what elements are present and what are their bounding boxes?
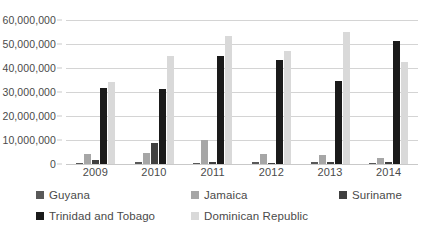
y-axis-tick-mark — [57, 164, 62, 165]
bar-jamaica-2010[interactable] — [143, 153, 150, 164]
y-axis-tick-label: 30,000,000 — [2, 86, 56, 98]
y-axis-tick-label: 0 — [50, 158, 56, 170]
bar-trinidad-and-tobago-2009[interactable] — [100, 88, 107, 164]
y-axis-tick-mark — [57, 92, 62, 93]
x-axis-tick-label-2012: 2012 — [242, 166, 301, 182]
legend-swatch-suriname — [339, 191, 347, 199]
bar-group-2011 — [183, 20, 242, 164]
legend-label-suriname: Suriname — [352, 189, 402, 201]
bar-guyana-2009[interactable] — [76, 163, 83, 164]
bar-suriname-2014[interactable] — [385, 162, 392, 164]
legend-item-jamaica[interactable]: Jamaica — [191, 189, 339, 201]
bar-guyana-2012[interactable] — [252, 162, 259, 164]
bar-group-2014 — [359, 20, 418, 164]
x-axis-tick-label-2009: 2009 — [66, 166, 125, 182]
legend-swatch-trinidad-and-tobago — [36, 212, 44, 220]
y-axis-tick-mark — [57, 116, 62, 117]
bar-groups — [66, 20, 418, 164]
y-axis-tick-label: 60,000,000 — [2, 14, 56, 26]
bar-trinidad-and-tobago-2012[interactable] — [276, 60, 283, 164]
bar-suriname-2013[interactable] — [327, 162, 334, 164]
x-axis: 200920102011201220132014 — [66, 166, 418, 182]
legend-row: Guyana Jamaica Suriname — [36, 184, 406, 205]
bar-jamaica-2013[interactable] — [319, 155, 326, 164]
y-axis-tick-mark — [57, 44, 62, 45]
y-axis-tick-mark — [57, 68, 62, 69]
bar-suriname-2012[interactable] — [268, 163, 275, 164]
bar-guyana-2014[interactable] — [369, 163, 376, 164]
legend-swatch-jamaica — [191, 191, 199, 199]
bar-dominican-republic-2011[interactable] — [225, 36, 232, 164]
legend-swatch-guyana — [36, 191, 44, 199]
chart-legend: Guyana Jamaica Suriname Trinidad and Tob… — [36, 184, 406, 226]
bar-trinidad-and-tobago-2013[interactable] — [335, 81, 342, 164]
bar-jamaica-2009[interactable] — [84, 154, 91, 164]
bar-suriname-2011[interactable] — [209, 162, 216, 164]
y-axis: 010,000,00020,000,00030,000,00040,000,00… — [0, 0, 62, 184]
y-axis-tick-label: 50,000,000 — [2, 38, 56, 50]
bar-guyana-2013[interactable] — [311, 162, 318, 164]
bar-jamaica-2011[interactable] — [201, 140, 208, 164]
legend-label-trinidad-and-tobago: Trinidad and Tobago — [49, 210, 155, 222]
y-axis-tick-label: 10,000,000 — [2, 134, 56, 146]
legend-item-suriname[interactable]: Suriname — [339, 189, 402, 201]
legend-item-guyana[interactable]: Guyana — [36, 189, 191, 201]
bar-suriname-2009[interactable] — [92, 160, 99, 164]
bar-suriname-2010[interactable] — [151, 143, 158, 164]
x-axis-tick-label-2014: 2014 — [359, 166, 418, 182]
bar-trinidad-and-tobago-2011[interactable] — [217, 56, 224, 164]
y-axis-tick-label: 40,000,000 — [2, 62, 56, 74]
legend-row: Trinidad and Tobago Dominican Republic — [36, 205, 406, 226]
bar-group-2013 — [301, 20, 360, 164]
bar-jamaica-2014[interactable] — [377, 158, 384, 164]
legend-swatch-dominican-republic — [191, 212, 199, 220]
y-axis-tick-label: 20,000,000 — [2, 110, 56, 122]
legend-item-trinidad-and-tobago[interactable]: Trinidad and Tobago — [36, 210, 191, 222]
bar-dominican-republic-2014[interactable] — [401, 62, 408, 164]
bar-dominican-republic-2009[interactable] — [108, 82, 115, 164]
bar-group-2012 — [242, 20, 301, 164]
bar-group-2009 — [66, 20, 125, 164]
legend-label-dominican-republic: Dominican Republic — [204, 210, 308, 222]
bar-dominican-republic-2013[interactable] — [343, 32, 350, 164]
bar-trinidad-and-tobago-2010[interactable] — [159, 89, 166, 164]
x-axis-tick-label-2010: 2010 — [125, 166, 184, 182]
bar-guyana-2010[interactable] — [135, 162, 142, 164]
gridline — [66, 164, 418, 165]
bar-guyana-2011[interactable] — [193, 163, 200, 164]
bar-jamaica-2012[interactable] — [260, 154, 267, 164]
y-axis-tick-mark — [57, 20, 62, 21]
legend-label-jamaica: Jamaica — [204, 189, 248, 201]
bar-group-2010 — [125, 20, 184, 164]
y-axis-tick-mark — [57, 140, 62, 141]
bar-chart: 010,000,00020,000,00030,000,00040,000,00… — [0, 0, 435, 229]
bar-dominican-republic-2012[interactable] — [284, 51, 291, 164]
x-axis-tick-label-2013: 2013 — [301, 166, 360, 182]
bar-trinidad-and-tobago-2014[interactable] — [393, 41, 400, 164]
x-axis-tick-label-2011: 2011 — [183, 166, 242, 182]
bar-dominican-republic-2010[interactable] — [167, 56, 174, 164]
legend-item-dominican-republic[interactable]: Dominican Republic — [191, 210, 339, 222]
legend-label-guyana: Guyana — [49, 189, 90, 201]
